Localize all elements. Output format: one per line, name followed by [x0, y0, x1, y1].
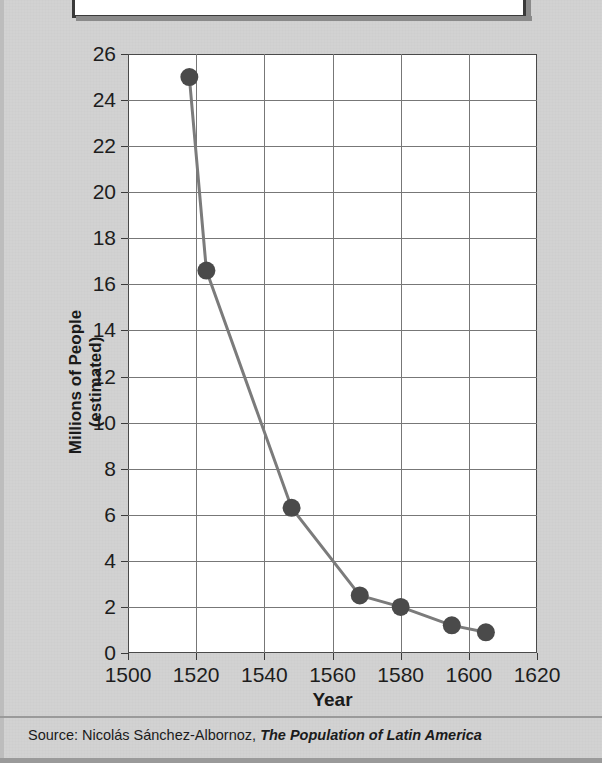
y-tick-label: 14: [93, 318, 116, 342]
y-axis-title-line1: Millions of People: [66, 309, 85, 454]
x-tick: [264, 653, 265, 660]
x-tick: [196, 653, 197, 660]
y-tick-label: 16: [93, 272, 116, 296]
x-tick-label: 1540: [241, 663, 288, 687]
x-tick-label: 1580: [377, 663, 424, 687]
y-tick: [121, 515, 128, 516]
x-tick-label: 1500: [105, 663, 152, 687]
y-tick: [121, 100, 128, 101]
series-line: [189, 77, 486, 632]
x-tick-label: 1560: [309, 663, 356, 687]
y-tick: [121, 54, 128, 55]
y-tick-label: 12: [93, 365, 116, 389]
y-tick-label: 10: [93, 411, 116, 435]
y-tick-label: 18: [93, 226, 116, 250]
y-tick-label: 20: [93, 180, 116, 204]
y-tick: [121, 377, 128, 378]
x-axis-title: Year: [128, 689, 537, 711]
y-tick: [121, 192, 128, 193]
data-point: [477, 623, 495, 641]
y-tick-label: 24: [93, 88, 116, 112]
y-tick: [121, 330, 128, 331]
page-bottom-edge: [0, 758, 602, 763]
title-box-shadow-bottom: [76, 16, 532, 21]
y-tick: [121, 653, 128, 654]
x-tick-label: 1620: [514, 663, 561, 687]
y-tick: [121, 561, 128, 562]
x-tick: [469, 653, 470, 660]
y-tick-label: 0: [104, 641, 116, 665]
y-tick: [121, 284, 128, 285]
x-tick-label: 1520: [173, 663, 220, 687]
x-tick: [401, 653, 402, 660]
data-point: [180, 68, 198, 86]
source-prefix: Source: Nicolás Sánchez-Albornoz,: [28, 727, 260, 743]
chart-page: of Central Mexico Millions of People (es…: [0, 0, 602, 763]
data-point: [197, 262, 215, 280]
y-tick-label: 4: [104, 549, 116, 573]
y-tick-label: 2: [104, 595, 116, 619]
chart-plot: 1500152015401560158016001620024681012141…: [128, 54, 537, 653]
series-layer: [128, 54, 537, 653]
y-tick-label: 6: [104, 503, 116, 527]
y-tick: [121, 423, 128, 424]
y-tick-label: 8: [104, 457, 116, 481]
y-tick-label: 26: [93, 42, 116, 66]
y-tick: [121, 146, 128, 147]
x-tick: [128, 653, 129, 660]
page-left-edge: [0, 0, 4, 763]
x-tick: [333, 653, 334, 660]
x-tick-label: 1600: [445, 663, 492, 687]
x-tick: [537, 653, 538, 660]
data-point: [351, 586, 369, 604]
source-separator: [0, 716, 602, 718]
y-tick: [121, 607, 128, 608]
y-tick-label: 22: [93, 134, 116, 158]
data-point: [283, 499, 301, 517]
y-tick: [121, 469, 128, 470]
source-book-title: The Population of Latin America: [260, 727, 482, 743]
data-point: [443, 616, 461, 634]
source-caption: Source: Nicolás Sánchez-Albornoz, The Po…: [28, 727, 482, 743]
data-point: [392, 598, 410, 616]
y-tick: [121, 238, 128, 239]
